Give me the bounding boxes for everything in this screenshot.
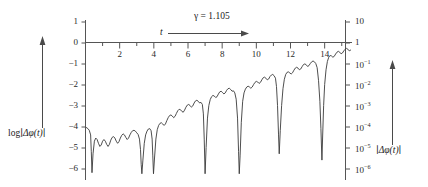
y2-tick-mantissa: 1 bbox=[355, 37, 360, 47]
y2-tick-label: 1 bbox=[355, 38, 360, 47]
y-tick-label: −1 bbox=[0, 59, 78, 68]
y2-tick-mantissa: 10 bbox=[355, 16, 364, 26]
y2-tick-mantissa: 10 bbox=[355, 81, 364, 91]
y2-tick-label: 10−1 bbox=[355, 59, 371, 70]
time-arrow-group bbox=[168, 31, 249, 37]
x-tick-label: 8 bbox=[210, 50, 234, 59]
x-axis-ticks bbox=[103, 43, 342, 49]
x-tick-label: 2 bbox=[108, 50, 132, 59]
y2-tick-exponent: −3 bbox=[364, 100, 371, 107]
time-arrow-head bbox=[241, 31, 249, 37]
y2-tick-mantissa: 10 bbox=[355, 102, 364, 112]
y2-tick-mantissa: 10 bbox=[355, 144, 364, 154]
x-tick-label: 6 bbox=[176, 50, 200, 59]
left-axis-label-log: log bbox=[8, 128, 20, 138]
y-tick-label: −3 bbox=[0, 101, 78, 110]
y2-tick-label: 10−5 bbox=[355, 143, 371, 154]
x-tick-label: 4 bbox=[142, 50, 166, 59]
right-label-arrow-group bbox=[390, 60, 396, 145]
figure-panel: 10−1−2−3−4−5−6 10110−110−210−310−410−510… bbox=[0, 0, 428, 187]
x-tick-label: 12 bbox=[279, 50, 303, 59]
left-axis-label-bar-close: ∣ bbox=[43, 129, 46, 139]
gamma-annotation: γ = 1.105 bbox=[194, 12, 230, 22]
y2-tick-mantissa: 10 bbox=[355, 123, 364, 133]
y-tick-label: −6 bbox=[0, 164, 78, 173]
y2-axis-ticks bbox=[346, 22, 351, 169]
right-axis-label: ∣Δφ(t)∣ bbox=[376, 146, 401, 156]
y2-tick-label: 10−6 bbox=[355, 164, 371, 175]
y2-tick-exponent: −5 bbox=[364, 142, 371, 149]
y-tick-label: −2 bbox=[0, 80, 78, 89]
y2-tick-exponent: −2 bbox=[364, 79, 371, 86]
y2-tick-label: 10−4 bbox=[355, 122, 371, 133]
y2-tick-exponent: −1 bbox=[364, 58, 371, 65]
y2-tick-mantissa: 10 bbox=[355, 60, 364, 70]
y-tick-label: 1 bbox=[0, 17, 78, 26]
plot-svg bbox=[0, 0, 428, 187]
x-tick-label: 10 bbox=[244, 50, 268, 59]
y2-tick-mantissa: 10 bbox=[355, 165, 364, 175]
y2-tick-label: 10−3 bbox=[355, 101, 371, 112]
axes-group bbox=[86, 20, 353, 180]
y2-tick-label: 10 bbox=[355, 17, 364, 26]
y2-tick-label: 10−2 bbox=[355, 80, 371, 91]
y-tick-label: 0 bbox=[0, 38, 78, 47]
x-tick-label: 14 bbox=[313, 50, 337, 59]
right-axis-label-bar-close: ∣ bbox=[399, 146, 402, 156]
left-axis-label: log∣Δφ(t)∣ bbox=[8, 129, 45, 139]
y2-tick-exponent: −6 bbox=[364, 163, 371, 170]
y2-tick-exponent: −4 bbox=[364, 121, 371, 128]
right-axis-label-body: Δφ(t) bbox=[379, 145, 399, 155]
data-curve-line bbox=[86, 48, 350, 173]
left-axis-label-body: Δφ(t) bbox=[23, 128, 43, 138]
time-axis-label: t bbox=[160, 28, 163, 38]
y-axis-ticks bbox=[82, 22, 86, 169]
right-label-arrow-head bbox=[390, 60, 396, 69]
y-tick-label: −5 bbox=[0, 143, 78, 152]
